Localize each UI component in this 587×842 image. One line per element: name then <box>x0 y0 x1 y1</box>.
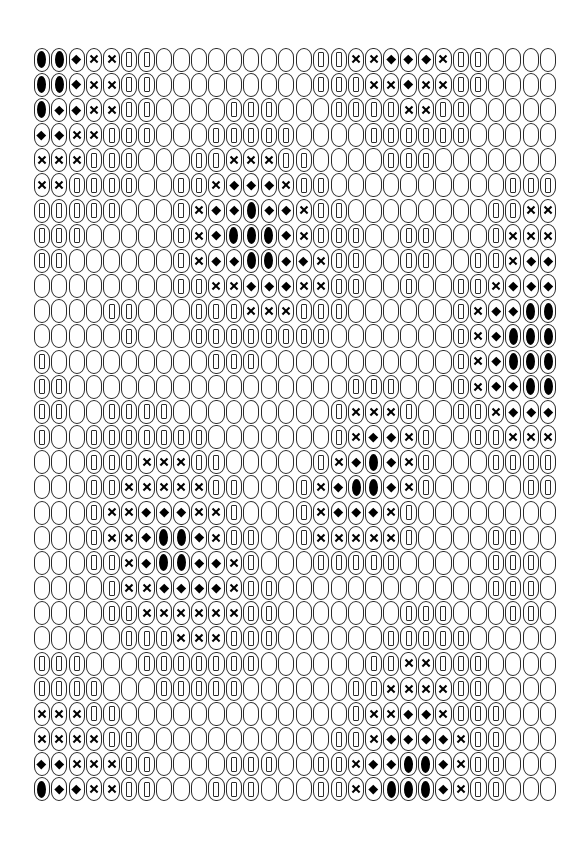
grid-cell <box>261 601 277 625</box>
grid-cell <box>208 98 224 122</box>
rectangle-icon <box>475 279 481 294</box>
grid-cell <box>296 173 312 197</box>
diamond-icon <box>212 206 221 215</box>
cross-icon <box>125 584 134 593</box>
grid-cell <box>243 501 259 525</box>
grid-cell <box>435 324 451 348</box>
rectangle-icon <box>56 379 62 394</box>
grid-cell <box>453 652 469 676</box>
diamond-icon <box>491 332 500 341</box>
grid-cell <box>383 450 399 474</box>
grid-cell <box>435 551 451 575</box>
grid-cell <box>261 249 277 273</box>
grid-cell <box>86 148 102 172</box>
grid-cell <box>69 173 85 197</box>
grid-cell <box>348 98 364 122</box>
rectangle-icon <box>458 681 464 696</box>
grid-cell <box>540 425 556 449</box>
cross-icon <box>107 508 116 517</box>
rectangle-icon <box>178 253 184 268</box>
grid-cell <box>208 274 224 298</box>
grid-cell <box>121 224 137 248</box>
grid-cell <box>51 98 67 122</box>
rectangle-icon <box>178 203 184 218</box>
grid-cell <box>208 224 224 248</box>
grid-cell <box>226 199 242 223</box>
grid-cell <box>261 752 277 776</box>
grid-cell <box>313 526 329 550</box>
rectangle-icon <box>458 128 464 143</box>
grid-cell <box>173 249 189 273</box>
diamond-icon <box>421 734 430 743</box>
grid-cell <box>383 501 399 525</box>
grid-cell <box>138 777 154 801</box>
cross-icon <box>491 407 500 416</box>
grid-cell <box>86 626 102 650</box>
grid-cell <box>51 777 67 801</box>
grid-cell <box>505 224 521 248</box>
grid-cell <box>103 224 119 248</box>
grid-cell <box>69 224 85 248</box>
rectangle-icon <box>528 555 534 570</box>
grid-cell <box>208 375 224 399</box>
grid-cell <box>470 576 486 600</box>
grid-cell <box>226 249 242 273</box>
grid-cell <box>121 702 137 726</box>
grid-cell <box>191 299 207 323</box>
grid-cell <box>103 199 119 223</box>
rectangle-icon <box>353 681 359 696</box>
grid-cell <box>418 576 434 600</box>
grid-cell <box>418 123 434 147</box>
grid-cell <box>331 450 347 474</box>
black-oval-icon <box>37 781 46 798</box>
cross-icon <box>229 558 238 567</box>
grid-cell <box>278 148 294 172</box>
rectangle-icon <box>109 480 115 495</box>
cross-icon <box>369 55 378 64</box>
grid-cell <box>505 727 521 751</box>
rectangle-icon <box>423 153 429 168</box>
rectangle-icon <box>144 631 150 646</box>
grid-cell <box>226 677 242 701</box>
grid-cell <box>488 249 504 273</box>
rectangle-icon <box>126 430 132 445</box>
rectangle-icon <box>91 706 97 721</box>
grid-cell <box>540 501 556 525</box>
grid-cell <box>296 224 312 248</box>
grid-cell <box>523 173 539 197</box>
grid-cell <box>348 526 364 550</box>
rectangle-icon <box>510 203 516 218</box>
grid-cell <box>208 73 224 97</box>
grid-cell <box>34 73 50 97</box>
diamond-icon <box>439 760 448 769</box>
grid-cell <box>313 702 329 726</box>
grid-cell <box>191 425 207 449</box>
rectangle-icon <box>318 228 324 243</box>
cross-icon <box>299 206 308 215</box>
rectangle-icon <box>231 505 237 520</box>
grid-cell <box>296 501 312 525</box>
cross-icon <box>474 307 483 316</box>
rectangle-icon <box>91 153 97 168</box>
grid-cell <box>365 752 381 776</box>
grid-cell <box>34 199 50 223</box>
grid-cell <box>348 576 364 600</box>
grid-cell <box>296 526 312 550</box>
grid-cell <box>383 551 399 575</box>
grid-cell <box>173 677 189 701</box>
grid-cell <box>331 652 347 676</box>
grid-cell <box>348 324 364 348</box>
grid-cell <box>488 501 504 525</box>
grid-cell <box>138 123 154 147</box>
cross-icon <box>90 80 99 89</box>
grid-cell <box>453 350 469 374</box>
grid-cell <box>156 148 172 172</box>
cross-icon <box>107 80 116 89</box>
grid-cell <box>453 752 469 776</box>
grid-cell <box>173 727 189 751</box>
grid-cell <box>261 173 277 197</box>
diamond-icon <box>369 508 378 517</box>
grid-cell <box>365 375 381 399</box>
cross-icon <box>107 105 116 114</box>
grid-cell <box>156 475 172 499</box>
